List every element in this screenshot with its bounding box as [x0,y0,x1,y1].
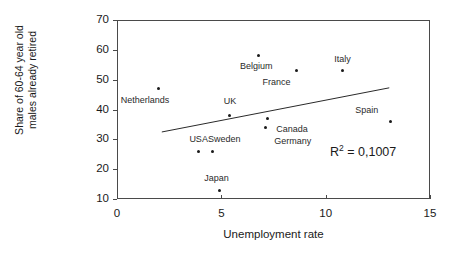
y-axis-tick-mark [113,139,117,140]
y-axis-tick-mark [113,20,117,21]
y-axis-tick-label: 70 [83,14,109,26]
chart-figure: Share of 60-64 year old males already re… [0,0,449,255]
x-axis-tick-mark [221,195,222,199]
data-point [264,126,267,129]
x-axis-title: Unemployment rate [117,228,430,240]
data-point-label: UK [224,96,237,106]
data-point-label: Canada [276,124,308,134]
r-squared-prefix: R [330,145,339,159]
x-axis-tick-label: 5 [206,208,236,220]
y-axis-title-line-2: males already retired [26,0,39,165]
y-axis-tick-label: 50 [83,74,109,86]
x-axis-tick-label: 15 [415,208,445,220]
x-axis-tick-mark [117,195,118,199]
data-point-label: Italy [334,54,351,64]
plot-canvas [118,21,431,200]
y-axis-title: Share of 60-64 year old males already re… [13,0,53,165]
r-squared-annotation: R2 = 0,1007 [330,143,396,159]
y-axis-tick-label: 10 [83,193,109,205]
data-point-label: Sweden [208,134,241,144]
y-axis-tick-label: 30 [83,133,109,145]
data-point [197,150,200,153]
y-axis-tick-mark [113,169,117,170]
data-point-label: Spain [355,105,378,115]
x-axis-tick-mark [430,195,431,199]
data-point-label: USA [189,134,208,144]
data-point-label: Germany [274,136,311,146]
x-axis-tick-label: 10 [311,208,341,220]
r-squared-suffix: = 0,1007 [344,145,396,159]
x-axis-tick-mark [326,195,327,199]
y-axis-tick-mark [113,110,117,111]
data-point [218,189,221,192]
data-point [266,117,269,120]
y-axis-tick-mark [113,50,117,51]
x-axis-tick-label: 0 [102,208,132,220]
plot-area [117,20,430,199]
y-axis-title-line-1: Share of 60-64 year old [13,0,26,165]
data-point [389,120,392,123]
y-axis-tick-label: 40 [83,104,109,116]
data-point-label: Belgium [240,61,273,71]
data-point-label: Netherlands [121,95,170,105]
y-axis-tick-label: 20 [83,163,109,175]
data-point-label: Japan [204,173,229,183]
data-point-label: France [262,77,290,87]
y-axis-tick-mark [113,80,117,81]
y-axis-tick-mark [113,199,117,200]
y-axis-tick-label: 60 [83,44,109,56]
